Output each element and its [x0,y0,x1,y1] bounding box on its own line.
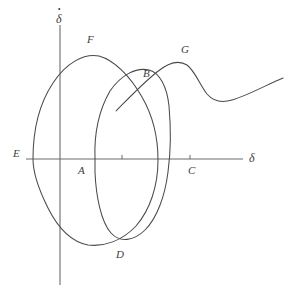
x-axis-label-text: δ [249,151,255,165]
overdot-icon [58,8,60,10]
point-label-d: D [116,249,124,260]
y-axis-label-text: δ [56,12,62,26]
point-label-c: C [188,165,195,176]
point-label-a: A [78,165,85,176]
point-label-b: B [143,68,150,79]
point-label-f: F [87,34,94,45]
y-axis-label: δ [56,13,62,25]
curve-outer-loop [33,55,158,245]
phase-plane-figure: δ δ A B C D E F G [0,0,297,294]
x-axis-label: δ [249,152,255,164]
point-label-g: G [181,44,189,55]
phase-plane-plot [0,0,297,294]
point-label-e: E [13,148,20,159]
